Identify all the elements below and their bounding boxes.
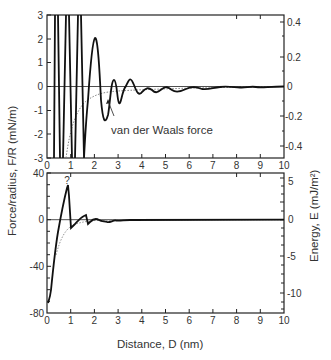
svg-text:8: 8 xyxy=(234,315,240,326)
top-y2-tick-labels: 0.4 0.2 0 -0.2 -0.4 xyxy=(285,17,303,152)
bottom-y-tick-labels: 40 0 -40 -80 xyxy=(30,168,45,319)
svg-text:0: 0 xyxy=(38,214,44,225)
svg-text:2: 2 xyxy=(37,34,43,45)
svg-text:4: 4 xyxy=(139,160,145,171)
svg-text:7: 7 xyxy=(210,160,216,171)
svg-text:-10: -10 xyxy=(287,288,302,299)
top-plot: 3 2 1 0 -1 -2 -3 0.4 0.2 0 -0.2 -0.4 0 1… xyxy=(34,10,303,171)
svg-text:2: 2 xyxy=(92,160,98,171)
svg-text:0: 0 xyxy=(44,315,50,326)
figure: 3 2 1 0 -1 -2 -3 0.4 0.2 0 -0.2 -0.4 0 1… xyxy=(0,0,331,360)
svg-text:6: 6 xyxy=(186,160,192,171)
vdw-annotation: van der Waals force xyxy=(111,124,213,136)
svg-text:-2: -2 xyxy=(34,129,43,140)
force-curve-bottom xyxy=(48,185,284,303)
svg-text:0: 0 xyxy=(37,81,43,92)
svg-text:-80: -80 xyxy=(30,308,45,319)
svg-text:0: 0 xyxy=(288,214,294,225)
top-x-tick-labels: 0 1 2 3 4 5 6 7 8 9 10 xyxy=(44,160,290,171)
svg-text:6: 6 xyxy=(186,315,192,326)
svg-text:-40: -40 xyxy=(30,261,45,272)
bottom-x-ticks xyxy=(71,173,261,313)
bottom-x-tick-labels: 0 1 2 3 4 5 6 7 8 9 10 xyxy=(44,315,290,326)
svg-text:-0.4: -0.4 xyxy=(285,141,303,152)
vdw-curve xyxy=(66,87,284,159)
svg-text:4: 4 xyxy=(139,315,145,326)
svg-text:9: 9 xyxy=(258,315,264,326)
top-y-tick-labels: 3 2 1 0 -1 -2 -3 xyxy=(34,10,43,164)
svg-text:9: 9 xyxy=(258,160,264,171)
svg-text:1: 1 xyxy=(68,160,74,171)
svg-text:3: 3 xyxy=(115,160,121,171)
svg-text:40: 40 xyxy=(33,168,45,179)
bottom-y2-tick-labels: 5 0 -5 -10 xyxy=(287,176,302,299)
x-axis-title: Distance, D (nm) xyxy=(117,338,203,350)
svg-text:-0.2: -0.2 xyxy=(285,111,303,122)
svg-text:-1: -1 xyxy=(34,105,43,116)
vdw-curve-bottom xyxy=(56,220,284,255)
question-annotation: ? xyxy=(64,175,70,186)
bottom-plot: 40 0 -40 -80 5 0 -5 -10 0 1 2 3 4 5 6 7 … xyxy=(30,168,302,326)
svg-text:3: 3 xyxy=(115,315,121,326)
svg-text:5: 5 xyxy=(288,176,294,187)
svg-text:0: 0 xyxy=(287,81,293,92)
y2-axis-title: Energy, E (mJ/m²) xyxy=(308,169,320,262)
svg-text:5: 5 xyxy=(163,315,169,326)
svg-text:0: 0 xyxy=(44,160,50,171)
y-axis-title: Force/radius, F/R (mN/m) xyxy=(6,105,18,236)
top-right-ticks xyxy=(280,22,284,146)
svg-text:3: 3 xyxy=(37,10,43,21)
svg-text:8: 8 xyxy=(234,160,240,171)
bottom-plot-frame xyxy=(47,173,284,313)
bottom-right-ticks xyxy=(280,178,284,309)
svg-text:1: 1 xyxy=(37,57,43,68)
svg-text:10: 10 xyxy=(278,315,290,326)
svg-text:2: 2 xyxy=(92,315,98,326)
svg-text:0.4: 0.4 xyxy=(287,17,301,28)
svg-text:10: 10 xyxy=(278,160,290,171)
svg-text:5: 5 xyxy=(163,160,169,171)
svg-text:1: 1 xyxy=(68,315,74,326)
svg-text:-3: -3 xyxy=(34,153,43,164)
svg-text:7: 7 xyxy=(210,315,216,326)
svg-text:-5: -5 xyxy=(287,251,296,262)
svg-text:0.2: 0.2 xyxy=(287,52,301,63)
